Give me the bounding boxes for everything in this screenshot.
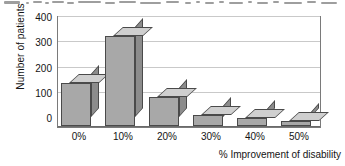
bar-top-face <box>245 109 285 118</box>
bar-side-face <box>91 65 99 117</box>
x-tick-label: 50% <box>289 131 309 143</box>
bar-column <box>193 15 223 126</box>
x-tick-label: 30% <box>201 131 221 143</box>
bar-top-face <box>69 74 109 83</box>
bar-front-face <box>193 115 223 126</box>
bar-front-face <box>61 83 91 126</box>
bar-chart-figure: Number of patients 0100200300400 0%10%20… <box>0 7 345 166</box>
bar-top-face <box>289 112 329 121</box>
x-tick-label: 20% <box>157 131 177 143</box>
x-tick-label: 0% <box>72 131 86 143</box>
cut-off-text-sliver <box>0 0 345 7</box>
bar-column <box>105 15 135 126</box>
bar-side-face <box>179 79 187 117</box>
y-tick-label: 100 <box>35 89 52 99</box>
axis-baseline <box>58 126 320 127</box>
x-axis-tick-labels: 0%10%20%30%40%50% <box>57 131 321 145</box>
y-axis-tick-labels: 0100200300400 <box>22 16 52 128</box>
x-tick-label: 40% <box>245 131 265 143</box>
bar-column <box>281 15 311 126</box>
bar-top-face <box>201 106 241 115</box>
bar-top-face <box>157 88 197 97</box>
bar-column <box>61 15 91 126</box>
plot-area <box>57 16 321 128</box>
bar-front-face <box>105 36 135 126</box>
y-tick-label: 200 <box>35 64 52 74</box>
bar-front-face <box>149 97 179 126</box>
bar-front-face <box>237 118 267 126</box>
x-tick-label: 10% <box>113 131 133 143</box>
x-axis-title: % Improvement of disability <box>219 149 341 160</box>
y-tick-label: 400 <box>35 13 52 23</box>
bar-top-face <box>113 27 153 36</box>
bar-column <box>149 15 179 126</box>
bar-column <box>237 15 267 126</box>
y-tick-label: 300 <box>35 38 52 48</box>
y-tick-label: 0 <box>46 114 52 124</box>
